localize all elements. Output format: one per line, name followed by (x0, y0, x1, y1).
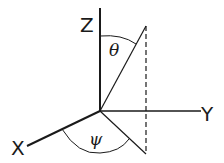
psi-label: ψ (89, 129, 103, 149)
x-axis-label: X (11, 136, 25, 160)
theta-label: θ (109, 40, 119, 60)
vector-line (100, 26, 146, 111)
z-axis-label: Z (80, 13, 94, 37)
coordinate-diagram: Z Y X θ ψ (0, 0, 224, 163)
projection-line (100, 111, 146, 154)
y-axis-label: Y (200, 102, 214, 126)
